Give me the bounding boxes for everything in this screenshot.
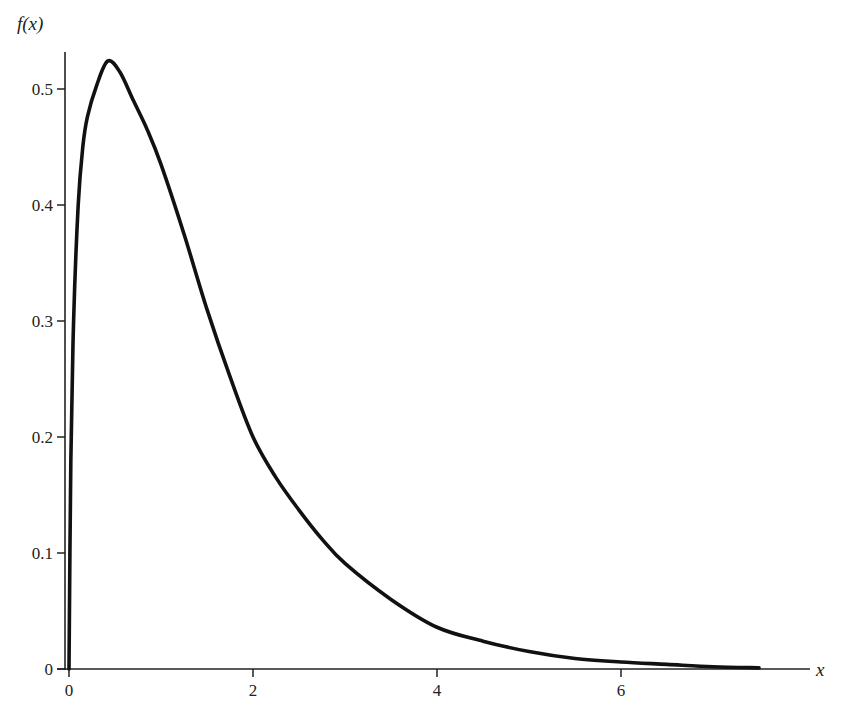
x-tick-label: 6 (617, 681, 626, 700)
density-curve (69, 61, 759, 669)
ticks: 00.10.20.30.40.50246 (32, 80, 626, 700)
x-tick-label: 0 (65, 681, 74, 700)
x-tick-label: 4 (433, 681, 442, 700)
y-tick-label: 0.3 (32, 312, 53, 331)
y-tick-label: 0 (45, 660, 54, 679)
x-tick-label: 2 (249, 681, 258, 700)
axes (57, 52, 810, 670)
x-axis-label: x (815, 659, 825, 680)
y-axis-label: f(x) (17, 13, 43, 35)
y-tick-label: 0.2 (32, 428, 53, 447)
chart: f(x) x 00.10.20.30.40.50246 (0, 0, 850, 722)
data-series (69, 61, 759, 669)
y-tick-label: 0.4 (32, 196, 54, 215)
y-tick-label: 0.1 (32, 544, 53, 563)
y-tick-label: 0.5 (32, 80, 53, 99)
